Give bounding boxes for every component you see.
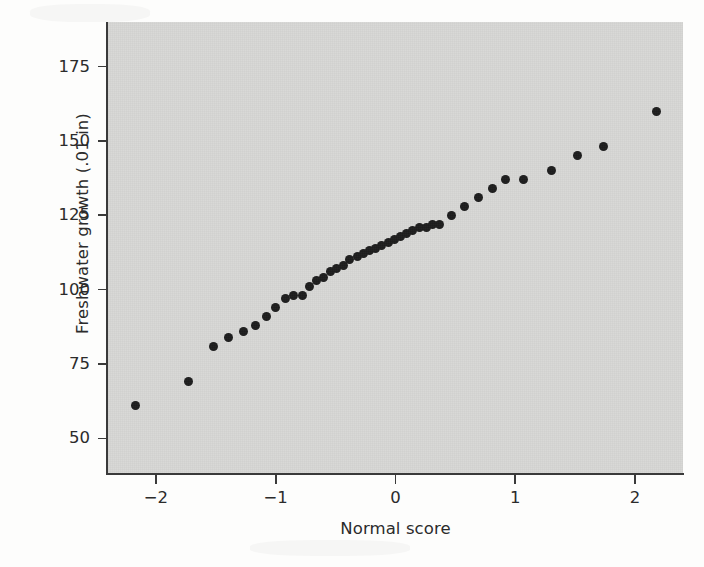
x-axis-title: Normal score <box>108 519 683 538</box>
x-tick-mark <box>514 474 516 484</box>
data-point <box>209 342 218 351</box>
x-tick-label: 2 <box>615 490 655 507</box>
y-tick-mark <box>98 140 108 142</box>
x-tick-label: 0 <box>376 490 416 507</box>
data-point <box>435 220 444 229</box>
x-tick-mark <box>155 474 157 484</box>
y-axis-title: Freshwater growth (.01 in) <box>73 24 92 424</box>
x-tick-mark <box>395 474 397 484</box>
data-point <box>460 202 469 211</box>
x-tick-label: −1 <box>256 490 296 507</box>
y-tick-mark <box>98 66 108 68</box>
data-point <box>519 175 528 184</box>
y-tick-mark <box>98 438 108 440</box>
data-point <box>652 107 661 116</box>
data-point <box>184 377 193 386</box>
data-point <box>131 401 140 410</box>
data-point <box>262 312 271 321</box>
data-point <box>224 333 233 342</box>
y-tick-mark <box>98 363 108 365</box>
data-point <box>251 321 260 330</box>
data-point <box>488 184 497 193</box>
y-axis-line <box>106 22 108 475</box>
data-point <box>298 291 307 300</box>
data-point <box>239 327 248 336</box>
x-tick-label: −2 <box>136 490 176 507</box>
data-point <box>289 291 298 300</box>
y-tick-mark <box>98 289 108 291</box>
normal-probability-plot-figure: 5075100125150175 −2−1012 Freshwater grow… <box>0 0 704 567</box>
data-point <box>599 142 608 151</box>
x-tick-mark <box>275 474 277 484</box>
data-point <box>447 211 456 220</box>
x-tick-mark <box>634 474 636 484</box>
scan-artifact <box>250 540 410 556</box>
y-tick-mark <box>98 214 108 216</box>
data-point <box>573 151 582 160</box>
data-point <box>501 175 510 184</box>
data-point <box>474 193 483 202</box>
plot-panel <box>108 22 683 474</box>
data-point <box>271 303 280 312</box>
scan-artifact <box>30 4 150 22</box>
x-tick-label: 1 <box>495 490 535 507</box>
y-tick-label: 50 <box>40 430 90 447</box>
data-point <box>547 166 556 175</box>
